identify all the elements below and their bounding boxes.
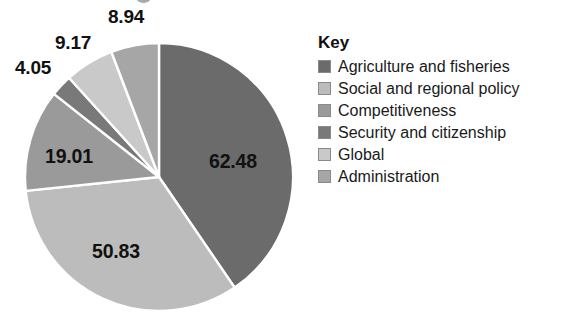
legend-item[interactable]: Competitiveness — [318, 100, 580, 121]
pie-value-label: 50.83 — [92, 240, 140, 263]
pie-value-label: 8.94 — [108, 6, 144, 28]
legend-item-label: Competitiveness — [338, 101, 456, 120]
pie-value-label: 4.05 — [15, 57, 51, 79]
legend-item[interactable]: Social and regional policy — [318, 78, 580, 99]
pie-value-label: 9.17 — [55, 32, 91, 54]
legend-swatch-icon — [318, 104, 331, 117]
legend-item[interactable]: Security and citizenship — [318, 122, 580, 143]
legend-item-label: Global — [338, 145, 384, 164]
legend-title: Key — [318, 33, 580, 52]
legend-item-label: Administration — [338, 167, 439, 186]
pie-slice-group — [25, 43, 293, 311]
legend-swatch-icon — [318, 170, 331, 183]
legend-item-label: Agriculture and fisheries — [338, 57, 510, 76]
pie-chart: 62.4850.8319.014.059.178.94 — [0, 0, 320, 336]
legend-swatch-icon — [318, 82, 331, 95]
legend-item-label: Social and regional policy — [338, 79, 519, 98]
pie-chart-svg — [0, 0, 320, 336]
pie-value-label: 62.48 — [209, 150, 257, 173]
pie-value-label: 19.01 — [45, 145, 93, 168]
legend-swatch-icon — [318, 148, 331, 161]
legend-swatch-icon — [318, 60, 331, 73]
legend-item-label: Security and citizenship — [338, 123, 506, 142]
legend-item[interactable]: Administration — [318, 166, 580, 187]
legend-item[interactable]: Agriculture and fisheries — [318, 56, 580, 77]
legend-swatch-icon — [318, 126, 331, 139]
chart-canvas: 62.4850.8319.014.059.178.94 Key Agricult… — [0, 0, 582, 336]
legend: Key Agriculture and fisheriesSocial and … — [318, 33, 580, 188]
legend-item-list: Agriculture and fisheriesSocial and regi… — [318, 56, 580, 187]
legend-item[interactable]: Global — [318, 144, 580, 165]
